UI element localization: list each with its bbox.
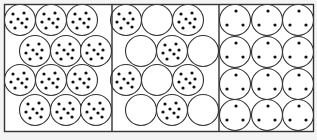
particle-dot [40, 20, 43, 23]
circle-outline [142, 65, 173, 96]
particle-dot [56, 17, 59, 20]
circle-outline [81, 36, 112, 67]
particle-circle [188, 95, 219, 126]
particle-dot [86, 25, 89, 28]
circle-outline [81, 95, 112, 126]
panel-2-packed-mixed [111, 5, 219, 126]
particle-dot [297, 9, 300, 12]
particle-dot [234, 9, 237, 12]
circle-outline [5, 65, 36, 96]
particle-dot [35, 52, 38, 55]
particle-circle [173, 65, 204, 96]
particle-dot [13, 86, 16, 89]
particle-dot [55, 25, 58, 28]
particle-dot [9, 80, 12, 83]
particle-dot [117, 72, 120, 75]
particle-dot [126, 21, 129, 24]
particle-dot [115, 20, 118, 23]
particle-dot [31, 48, 34, 51]
particle-dot [273, 118, 276, 121]
diagram-canvas [0, 0, 317, 140]
particle-dot [24, 85, 27, 88]
particle-dot [37, 42, 40, 45]
particle-dot [234, 41, 237, 44]
particle-dot [40, 48, 43, 51]
circle-outline [283, 37, 314, 68]
particle-dot [51, 81, 54, 84]
particle-circle [283, 5, 314, 36]
particle-dot [193, 77, 196, 80]
particle-dot [98, 101, 101, 104]
particle-dot [44, 86, 47, 89]
particle-dot [225, 118, 228, 121]
particle-dot [55, 110, 58, 113]
circle-outline [188, 36, 219, 67]
particle-dot [40, 107, 43, 110]
particle-dot [11, 72, 14, 75]
circle-outline [157, 36, 188, 67]
particle-dot [20, 21, 23, 24]
particle-dot [304, 118, 307, 121]
particle-dot [304, 55, 307, 58]
particle-circle [220, 69, 251, 100]
particle-circle [81, 36, 112, 67]
particle-dot [119, 26, 122, 29]
particle-dot [92, 48, 95, 51]
particle-dot [179, 72, 182, 75]
particle-dot [128, 11, 131, 14]
particle-dot [9, 20, 12, 23]
particle-dot [53, 71, 56, 74]
particle-dot [126, 81, 129, 84]
particle-dot [181, 86, 184, 89]
circle-outline [252, 5, 283, 36]
particle-dot [163, 43, 166, 46]
particle-dot [257, 118, 260, 121]
particle-dot [193, 17, 196, 20]
particle-dot [119, 86, 122, 89]
particle-dot [188, 81, 191, 84]
particle-dot [225, 87, 228, 90]
particle-dot [266, 73, 269, 76]
particle-dot [62, 48, 65, 51]
particle-dot [42, 72, 45, 75]
particle-circle [252, 37, 283, 68]
particle-circle [283, 69, 314, 100]
particle-dot [16, 77, 19, 80]
particle-dot [20, 81, 23, 84]
circle-outline [67, 5, 98, 36]
circle-outline [173, 5, 204, 36]
particle-circle [20, 95, 51, 126]
particle-dot [55, 85, 58, 88]
particle-dot [59, 116, 62, 119]
particle-dot [31, 107, 34, 110]
particle-dot [225, 23, 228, 26]
particle-dot [35, 111, 38, 114]
particle-dot [26, 43, 29, 46]
particle-circle [283, 37, 314, 68]
particle-dot [25, 17, 28, 20]
particle-dot [304, 23, 307, 26]
particle-dot [96, 111, 99, 114]
particle-dot [100, 56, 103, 59]
particle-diagram [0, 0, 317, 140]
circle-outline [67, 65, 98, 96]
particle-dot [98, 42, 101, 45]
particle-dot [70, 56, 73, 59]
particle-dot [78, 77, 81, 80]
particle-dot [117, 12, 120, 15]
particle-dot [71, 20, 74, 23]
particle-circle [51, 95, 82, 126]
particle-dot [101, 107, 104, 110]
particle-dot [87, 17, 90, 20]
particle-dot [122, 77, 125, 80]
particle-dot [297, 104, 300, 107]
circle-outline [220, 37, 251, 68]
particle-dot [82, 81, 85, 84]
panel-3-grid-three-dots [220, 5, 314, 131]
circle-outline [111, 5, 142, 36]
particle-dot [241, 118, 244, 121]
circle-outline [252, 69, 283, 100]
particle-dot [165, 116, 168, 119]
particle-dot [56, 77, 59, 80]
particle-dot [176, 115, 179, 118]
